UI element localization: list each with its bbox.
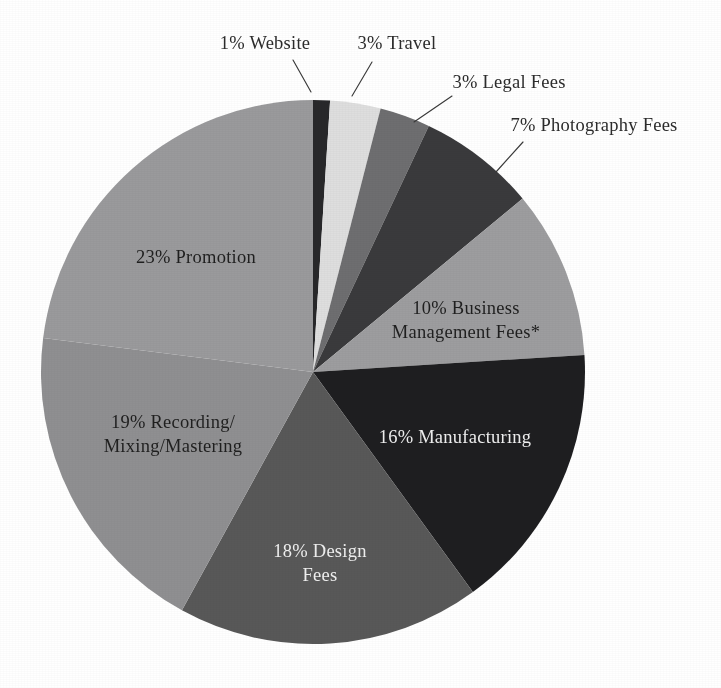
leader-line-legal-fees	[414, 96, 452, 122]
slice-label-line: 19% Recording/	[111, 412, 236, 432]
slice-label-promotion: 23% Promotion	[136, 247, 256, 267]
pie-slices-group	[41, 100, 585, 644]
leader-line-photography-fees	[496, 142, 523, 172]
slice-label-line: Mixing/Mastering	[104, 436, 243, 456]
slice-label-line: Fees	[303, 565, 338, 585]
slice-label-line: 3% Travel	[358, 33, 437, 53]
slice-label-travel: 3% Travel	[358, 33, 437, 53]
slice-label-line: Management Fees*	[392, 322, 540, 342]
leader-line-travel	[352, 62, 372, 96]
pie-slice-promotion[interactable]	[43, 100, 313, 372]
slice-label-photography-fees: 7% Photography Fees	[510, 115, 677, 135]
slice-label-line: 1% Website	[220, 33, 311, 53]
slice-label-manufacturing: 16% Manufacturing	[379, 427, 532, 447]
slice-label-line: 10% Business	[412, 298, 519, 318]
slice-label-line: 23% Promotion	[136, 247, 256, 267]
slice-label-website: 1% Website	[220, 33, 311, 53]
leader-line-website	[293, 60, 311, 92]
slice-label-line: 16% Manufacturing	[379, 427, 532, 447]
slice-label-line: 7% Photography Fees	[510, 115, 677, 135]
slice-label-legal-fees: 3% Legal Fees	[452, 72, 565, 92]
slice-label-line: 18% Design	[273, 541, 366, 561]
pie-chart-figure: 1% Website3% Travel3% Legal Fees7% Photo…	[0, 0, 721, 688]
slice-label-line: 3% Legal Fees	[452, 72, 565, 92]
pie-chart-svg: 1% Website3% Travel3% Legal Fees7% Photo…	[0, 0, 721, 688]
